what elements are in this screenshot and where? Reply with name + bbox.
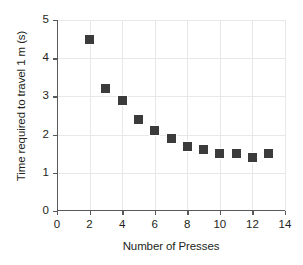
y-axis-tick: [53, 20, 57, 21]
data-point-marker: [263, 148, 274, 159]
gridline-horizontal: [57, 96, 285, 97]
gridline-vertical: [220, 20, 221, 211]
x-axis-tick-label: 6: [145, 219, 165, 231]
y-axis-line: [57, 20, 58, 211]
data-point-marker: [117, 95, 128, 106]
data-point-marker: [182, 141, 193, 152]
x-axis-tick-label: 12: [242, 219, 262, 231]
gridline-vertical: [122, 20, 123, 211]
y-axis-tick: [53, 135, 57, 136]
gridline-vertical: [285, 20, 286, 211]
data-point-marker: [133, 114, 144, 125]
gridline-vertical: [90, 20, 91, 211]
x-axis-tick: [90, 211, 91, 215]
data-point-marker: [247, 152, 258, 163]
y-axis-tick: [53, 58, 57, 59]
y-axis-title: Time required to travel 1 m (s): [12, 0, 30, 212]
data-point-marker: [198, 144, 209, 155]
x-axis-tick: [252, 211, 253, 215]
y-axis-tick-label: 1: [35, 167, 49, 179]
x-axis-line: [57, 210, 285, 211]
y-axis-tick-label: 0: [35, 205, 49, 217]
gridline-horizontal: [57, 173, 285, 174]
x-axis-tick-label: 8: [177, 219, 197, 231]
x-axis-tick: [220, 211, 221, 215]
y-axis-tick-label: 2: [35, 129, 49, 141]
x-axis-tick: [57, 211, 58, 215]
x-axis-tick-label: 10: [210, 219, 230, 231]
x-axis-tick-label: 2: [80, 219, 100, 231]
gridline-horizontal: [57, 58, 285, 59]
x-axis-tick-label: 14: [275, 219, 295, 231]
gridline-vertical: [155, 20, 156, 211]
data-point-marker: [84, 34, 95, 45]
x-axis-tick-label: 4: [112, 219, 132, 231]
plot-area: [57, 20, 285, 211]
y-axis-tick-label: 3: [35, 90, 49, 102]
scatter-chart-figure: Time required to travel 1 m (s) Number o…: [0, 0, 303, 265]
x-axis-tick-label: 0: [47, 219, 67, 231]
x-axis-tick: [187, 211, 188, 215]
gridline-horizontal: [57, 20, 285, 21]
y-axis-tick-label: 5: [35, 14, 49, 26]
data-point-marker: [100, 83, 111, 94]
y-axis-tick: [53, 96, 57, 97]
y-axis-tick-label: 4: [35, 52, 49, 64]
x-axis-tick: [122, 211, 123, 215]
gridline-vertical: [187, 20, 188, 211]
gridline-vertical: [252, 20, 253, 211]
data-point-marker: [149, 125, 160, 136]
x-axis-tick: [285, 211, 286, 215]
data-point-marker: [231, 148, 242, 159]
x-axis-title: Number of Presses: [57, 240, 285, 252]
data-point-marker: [214, 148, 225, 159]
y-axis-tick: [53, 173, 57, 174]
x-axis-tick: [155, 211, 156, 215]
data-point-marker: [166, 133, 177, 144]
